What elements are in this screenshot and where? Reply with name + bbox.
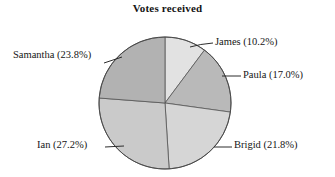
pie-chart-figure: Votes received James (10.2%) Paula (17.0… xyxy=(0,0,335,177)
pie-slice-brigid xyxy=(165,103,230,169)
pie-label-samantha: Samantha (23.8%) xyxy=(13,49,91,61)
pie-label-brigid: Brigid (21.8%) xyxy=(234,139,298,151)
pie-slice-samantha xyxy=(99,37,165,103)
pie-label-paula: Paula (17.0%) xyxy=(243,69,303,81)
pie-slice-ian xyxy=(99,98,169,169)
pie-label-james: James (10.2%) xyxy=(215,36,277,48)
pie-label-ian: Ian (27.2%) xyxy=(37,139,87,151)
